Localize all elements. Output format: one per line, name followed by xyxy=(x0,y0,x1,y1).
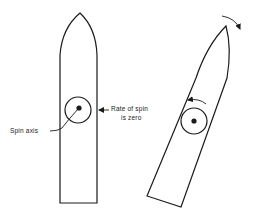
upright-rocket xyxy=(50,13,109,203)
tilted-spin-axis-dot xyxy=(191,118,196,123)
tilted-rocket xyxy=(147,16,240,207)
is-zero-label: is zero xyxy=(121,114,142,121)
tilted-rocket-body-outline xyxy=(147,26,229,207)
rate-of-spin-label: Rate of spin xyxy=(111,105,148,112)
spin-axis-leader-line xyxy=(50,109,78,131)
spin-axis-label: Spin axis xyxy=(10,127,38,134)
precession-arrow xyxy=(188,100,206,105)
